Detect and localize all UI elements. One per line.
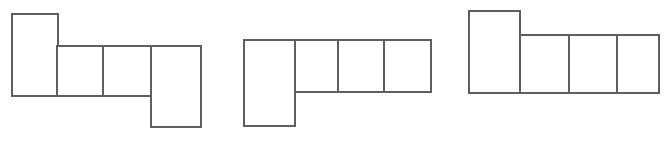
cell-1-c bbox=[103, 46, 152, 96]
cell-2-b bbox=[295, 40, 338, 92]
polyomino-net-figure bbox=[0, 0, 664, 142]
cell-3-c bbox=[569, 35, 617, 93]
cell-3-a bbox=[469, 11, 520, 93]
cell-1-a bbox=[12, 14, 58, 96]
cell-2-c bbox=[338, 40, 384, 92]
cell-3-b bbox=[520, 35, 569, 93]
cell-1-d bbox=[151, 46, 201, 127]
cell-3-d bbox=[617, 35, 659, 93]
cell-2-a bbox=[244, 40, 295, 126]
cell-2-d bbox=[384, 40, 431, 92]
cell-1-b bbox=[57, 46, 103, 96]
